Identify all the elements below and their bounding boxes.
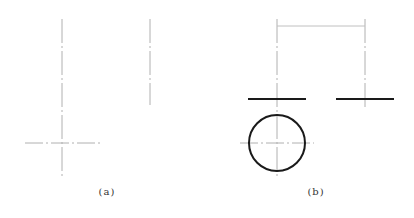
- figure-b-caption: (b): [307, 186, 324, 197]
- figure-a-caption: (a): [99, 186, 116, 197]
- figure-b: [240, 19, 394, 177]
- diagram-canvas: [0, 0, 414, 218]
- figure-a: [25, 19, 150, 177]
